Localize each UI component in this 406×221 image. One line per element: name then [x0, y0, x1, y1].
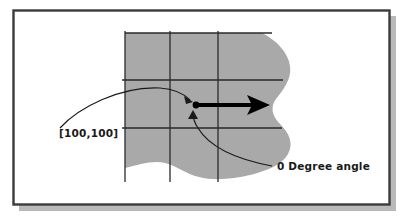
- angle-label: 0 Degree angle: [277, 160, 370, 172]
- coordinate-label: [100,100]: [59, 127, 118, 139]
- diagram-canvas: [100,100] 0 Degree angle: [0, 0, 406, 221]
- figure-screenshot: [100,100] 0 Degree angle: [0, 0, 406, 221]
- origin-dot: [193, 102, 200, 109]
